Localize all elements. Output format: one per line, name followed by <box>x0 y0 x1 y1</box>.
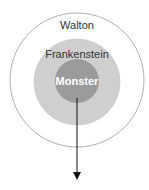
label-frankenstein: Frankenstein <box>45 48 109 60</box>
nested-circles-diagram: Walton Frankenstein Monster <box>0 0 149 190</box>
label-monster: Monster <box>56 75 100 87</box>
arrow-down-icon <box>73 172 81 180</box>
label-walton: Walton <box>60 19 94 31</box>
